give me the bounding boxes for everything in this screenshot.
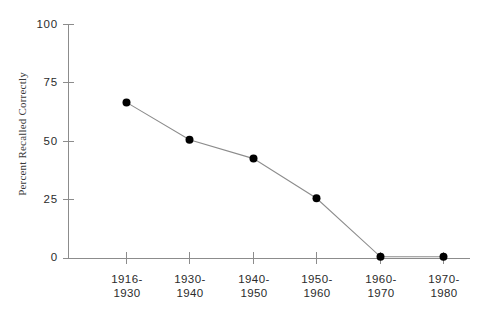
data-point-group — [123, 98, 448, 260]
data-point — [250, 155, 258, 163]
data-line-series — [127, 102, 444, 256]
data-point — [377, 253, 385, 261]
x-tick-label-3: 1950- 1960 — [282, 272, 352, 300]
x-tick-label-0: 1916- 1930 — [92, 272, 162, 300]
x-tick-label-2: 1940- 1950 — [219, 272, 289, 300]
x-tick-label-1-line1: 1930- — [155, 272, 225, 286]
x-tick-label-0-line1: 1916- — [92, 272, 162, 286]
x-tick-label-5: 1970- 1980 — [409, 272, 479, 300]
x-tick-label-0-line2: 1930 — [92, 286, 162, 300]
chart-plot-area — [0, 0, 485, 311]
x-tick-label-1: 1930- 1940 — [155, 272, 225, 300]
x-tick-label-2-line2: 1950 — [219, 286, 289, 300]
x-tick-label-1-line2: 1940 — [155, 286, 225, 300]
data-point — [186, 136, 194, 144]
data-point — [123, 98, 131, 106]
x-tick-label-4-line1: 1960- — [346, 272, 416, 286]
x-tick-label-3-line2: 1960 — [282, 286, 352, 300]
x-tick-label-4-line2: 1970 — [346, 286, 416, 300]
x-tick-label-3-line1: 1950- — [282, 272, 352, 286]
x-tick-label-2-line1: 1940- — [219, 272, 289, 286]
x-tick-label-5-line2: 1980 — [409, 286, 479, 300]
data-point — [313, 194, 321, 202]
data-point — [440, 253, 448, 261]
x-tick-label-5-line1: 1970- — [409, 272, 479, 286]
chart-container: Percent Recalled Correctly 100 75 50 25 … — [0, 0, 485, 311]
x-tick-label-4: 1960- 1970 — [346, 272, 416, 300]
